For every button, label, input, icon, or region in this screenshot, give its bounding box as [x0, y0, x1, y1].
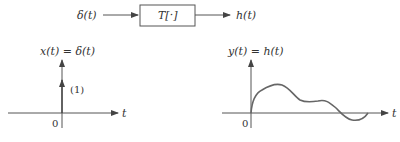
right-x-axis-label: t	[392, 107, 397, 120]
left-origin-label: 0	[52, 118, 58, 129]
left-plot-title: x(t) = δ(t)	[40, 45, 95, 58]
left-x-axis-label: t	[122, 107, 127, 120]
system-diagram: δ(t) T[·] h(t) x(t) = δ(t) (1) 0 t y(t) …	[0, 0, 400, 142]
right-origin-label: 0	[242, 118, 248, 129]
right-plot-title: y(t) = h(t)	[227, 45, 284, 58]
output-signal-label: h(t)	[236, 9, 256, 22]
system-label: T[·]	[158, 9, 178, 22]
impulse-weight-label: (1)	[70, 84, 84, 95]
impulse-response-curve	[251, 84, 368, 120]
input-signal-label: δ(t)	[77, 9, 97, 22]
